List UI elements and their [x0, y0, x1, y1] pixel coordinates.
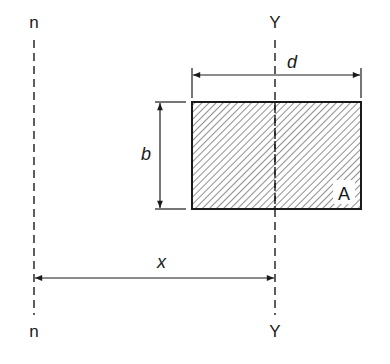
offset-label: x — [156, 252, 167, 272]
y-axis-label-bottom: Y — [269, 322, 280, 341]
n-axis-label-top: n — [29, 13, 38, 32]
diagram-canvas: n n Y Y A d b x — [0, 0, 390, 364]
y-axis-label-top: Y — [269, 13, 280, 32]
height-dimension — [155, 102, 186, 209]
height-label: b — [141, 144, 151, 164]
width-dimension — [192, 68, 361, 98]
n-axis-label-bottom: n — [29, 322, 38, 341]
width-label: d — [287, 52, 298, 72]
area-label: A — [338, 184, 350, 204]
